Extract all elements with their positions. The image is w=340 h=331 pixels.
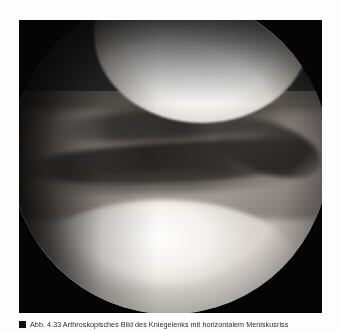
caption-text: Abb. 4.33 Arthroskopisches Bild des Knie… [30, 320, 288, 329]
caption-marker-icon [19, 321, 26, 328]
endoscope-field-of-view [19, 20, 322, 313]
film-grain-overlay [19, 20, 322, 313]
figure-image [19, 20, 322, 313]
document-page: Abb. 4.33 Arthroskopisches Bild des Knie… [0, 0, 340, 331]
figure-caption: Abb. 4.33 Arthroskopisches Bild des Knie… [19, 320, 325, 331]
